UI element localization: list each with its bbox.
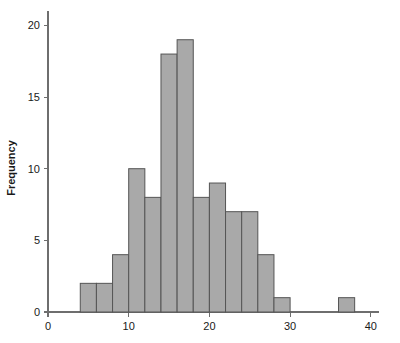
histogram-bar: [113, 255, 129, 312]
y-tick-label: 5: [34, 234, 40, 246]
histogram-bar: [226, 212, 242, 312]
histogram-figure: 05101520010203040Frequency: [0, 0, 400, 343]
histogram-bar: [242, 212, 258, 312]
histogram-canvas: 05101520010203040Frequency: [0, 0, 400, 343]
histogram-bar: [209, 183, 225, 312]
histogram-bar: [258, 255, 274, 312]
histogram-bar: [96, 283, 112, 312]
y-tick-label: 10: [28, 163, 40, 175]
histogram-bar: [161, 54, 177, 312]
histogram-bar: [193, 197, 209, 312]
x-tick-label: 20: [203, 320, 215, 332]
y-axis-title: Frequency: [5, 139, 17, 196]
x-tick-label: 30: [284, 320, 296, 332]
x-tick-label: 10: [123, 320, 135, 332]
histogram-bar: [145, 197, 161, 312]
histogram-bar: [339, 298, 355, 312]
y-tick-label: 20: [28, 19, 40, 31]
y-tick-label: 15: [28, 91, 40, 103]
x-tick-label: 0: [45, 320, 51, 332]
bars-group: [80, 40, 354, 312]
histogram-bar: [129, 169, 145, 312]
histogram-bar: [274, 298, 290, 312]
y-tick-label: 0: [34, 306, 40, 318]
histogram-bar: [177, 40, 193, 312]
x-tick-label: 40: [365, 320, 377, 332]
histogram-bar: [80, 283, 96, 312]
